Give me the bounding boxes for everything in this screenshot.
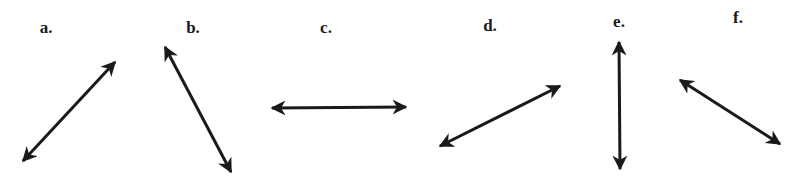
double-arrow-b-icon	[165, 47, 231, 172]
label-a: a.	[40, 18, 53, 38]
double-arrow-e-icon	[619, 42, 620, 169]
arrows-figure: a. b. c. d. e. f.	[0, 0, 808, 179]
arrow-line	[272, 107, 406, 108]
arrow-line	[680, 80, 780, 144]
label-c: c.	[320, 18, 332, 38]
arrows-layer	[0, 0, 808, 179]
arrow-line	[440, 86, 560, 146]
arrow-line	[23, 62, 115, 161]
arrow-line	[165, 47, 231, 172]
double-arrow-d-icon	[440, 86, 560, 146]
double-arrow-f-icon	[680, 80, 780, 144]
double-arrow-a-icon	[23, 62, 115, 161]
label-f: f.	[733, 8, 743, 28]
arrow-line	[619, 42, 620, 169]
label-d: d.	[483, 16, 497, 36]
label-e: e.	[613, 12, 625, 32]
label-b: b.	[186, 18, 200, 38]
double-arrow-c-icon	[272, 107, 406, 108]
